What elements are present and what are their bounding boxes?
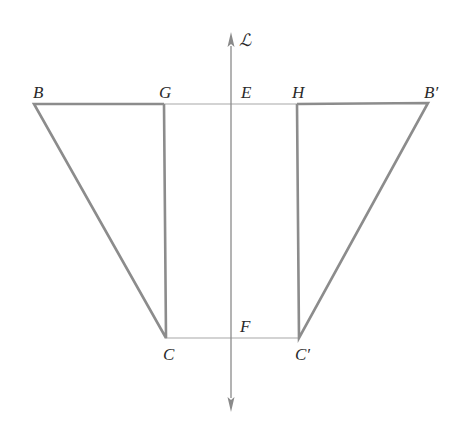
diagram-canvas: ℒ B G E H B′ F C C′: [0, 0, 467, 425]
reflection-figure: [0, 0, 467, 425]
label-E: E: [241, 84, 251, 101]
label-B: B: [33, 84, 43, 101]
label-axis-L: ℒ: [239, 32, 251, 49]
left-figure: [34, 104, 166, 338]
label-H: H: [292, 84, 304, 101]
label-C: C: [163, 346, 174, 363]
label-F: F: [240, 318, 250, 335]
axis-arrow-up-icon: [228, 32, 235, 47]
right-figure: [297, 103, 428, 338]
label-C-prime: C′: [295, 346, 310, 363]
label-B-prime: B′: [424, 84, 438, 101]
label-G: G: [159, 84, 171, 101]
axis-arrow-down-icon: [228, 397, 235, 412]
